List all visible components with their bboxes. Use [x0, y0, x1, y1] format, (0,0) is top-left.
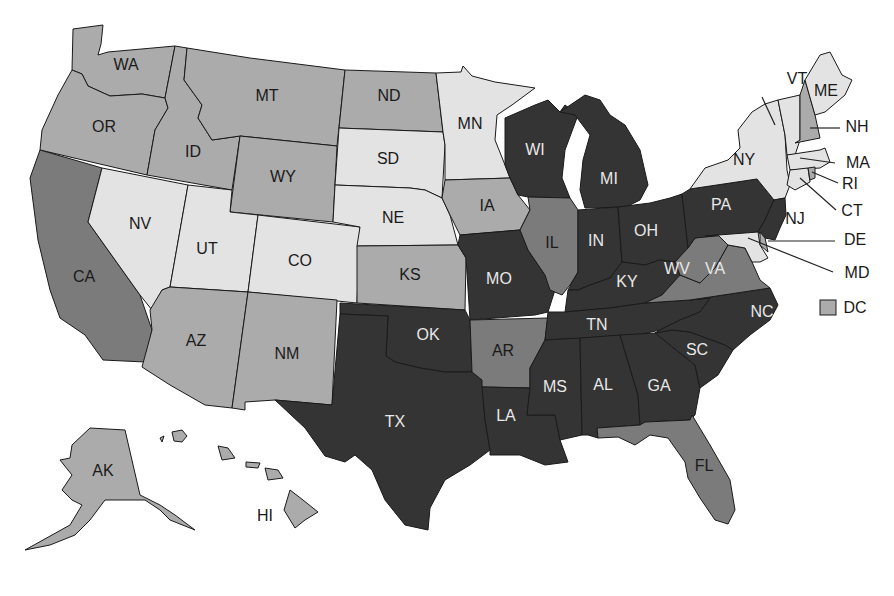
label-WI: WI — [525, 141, 545, 158]
label-NH: NH — [845, 118, 868, 135]
label-LA: LA — [496, 407, 516, 424]
state-CT[interactable] — [787, 168, 810, 190]
label-AL: AL — [593, 376, 613, 393]
label-OK: OK — [416, 326, 439, 343]
label-MT: MT — [255, 87, 278, 104]
label-GA: GA — [647, 377, 670, 394]
label-OH: OH — [634, 222, 658, 239]
label-CT: CT — [841, 202, 863, 219]
state-HI[interactable] — [160, 430, 318, 528]
label-VA: VA — [705, 260, 725, 277]
label-SC: SC — [686, 341, 708, 358]
label-MS: MS — [543, 378, 567, 395]
label-NJ: NJ — [785, 210, 805, 227]
label-NY: NY — [733, 151, 756, 168]
state-AK[interactable] — [25, 428, 195, 550]
label-MN: MN — [458, 115, 483, 132]
label-TN: TN — [586, 316, 607, 333]
label-OR: OR — [92, 118, 116, 135]
label-WA: WA — [113, 56, 139, 73]
label-TX: TX — [385, 413, 406, 430]
label-DE: DE — [844, 231, 866, 248]
label-IA: IA — [479, 197, 494, 214]
label-DC: DC — [843, 299, 866, 316]
label-AZ: AZ — [186, 332, 207, 349]
label-ME: ME — [814, 82, 838, 99]
label-HI: HI — [257, 507, 273, 524]
label-RI: RI — [842, 175, 858, 192]
label-MA: MA — [846, 154, 870, 171]
label-MD: MD — [845, 264, 870, 281]
label-ID: ID — [185, 143, 201, 160]
label-FL: FL — [695, 457, 714, 474]
label-AK: AK — [92, 462, 114, 479]
label-VT: VT — [787, 70, 808, 87]
label-MI: MI — [600, 170, 618, 187]
label-WY: WY — [270, 168, 296, 185]
label-CA: CA — [73, 268, 96, 285]
label-CO: CO — [288, 252, 312, 269]
us-choropleth-map: WA OR ID MT ND WY SD NV UT CO NE KS CA A… — [0, 0, 894, 596]
label-KS: KS — [399, 266, 420, 283]
label-NC: NC — [750, 303, 773, 320]
label-UT: UT — [196, 240, 218, 257]
label-NV: NV — [129, 215, 152, 232]
label-MO: MO — [486, 270, 512, 287]
label-AR: AR — [492, 342, 514, 359]
dc-swatch[interactable] — [820, 300, 836, 315]
label-PA: PA — [711, 196, 731, 213]
label-NE: NE — [382, 209, 404, 226]
state-MI[interactable] — [560, 95, 648, 208]
label-ND: ND — [377, 87, 400, 104]
label-SD: SD — [377, 150, 399, 167]
label-KY: KY — [616, 273, 638, 290]
label-IN: IN — [588, 232, 604, 249]
state-FL[interactable] — [597, 415, 735, 524]
label-NM: NM — [275, 345, 300, 362]
label-WV: WV — [664, 260, 690, 277]
label-IL: IL — [545, 234, 558, 251]
